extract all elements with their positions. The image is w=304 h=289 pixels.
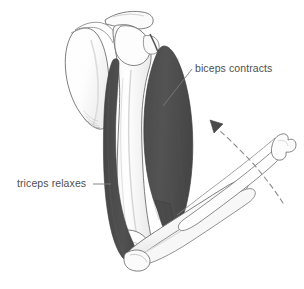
forearm-extended — [178, 144, 285, 231]
forearm-flexed-second-bone — [135, 189, 256, 267]
anatomy-diagram: biceps contracts triceps relaxes — [0, 0, 304, 289]
scapula-body — [65, 28, 109, 129]
forearm-extended-head — [271, 134, 296, 160]
triceps-label: triceps relaxes — [17, 178, 86, 189]
forearm-extended-group — [177, 134, 296, 231]
arrowhead-icon — [210, 120, 223, 133]
biceps-label: biceps contracts — [195, 63, 272, 74]
biceps-muscle-group — [144, 34, 193, 237]
anatomy-illustration — [0, 0, 304, 289]
